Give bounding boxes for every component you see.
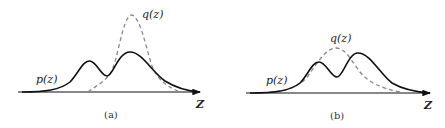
p-curve bbox=[22, 52, 200, 92]
q-label: q(z) bbox=[142, 8, 163, 21]
z-axis-label: Z bbox=[423, 99, 433, 112]
p-label: p(z) bbox=[36, 73, 57, 86]
p-curve bbox=[250, 53, 430, 93]
figure: p(z) q(z) Z (a) p(z) q(z) Z (b) bbox=[0, 0, 445, 128]
panel-a: p(z) q(z) Z (a) bbox=[18, 8, 205, 120]
p-label: p(z) bbox=[266, 74, 287, 87]
q-label: q(z) bbox=[330, 32, 351, 45]
caption-b: (b) bbox=[330, 110, 344, 121]
z-axis-label: Z bbox=[195, 98, 205, 111]
panel-b: p(z) q(z) Z (b) bbox=[246, 32, 433, 121]
caption-a: (a) bbox=[104, 109, 118, 120]
